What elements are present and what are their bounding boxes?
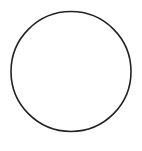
diagram-canvas (0, 0, 142, 151)
diagram-svg (0, 0, 142, 151)
circle-shape (11, 12, 131, 132)
